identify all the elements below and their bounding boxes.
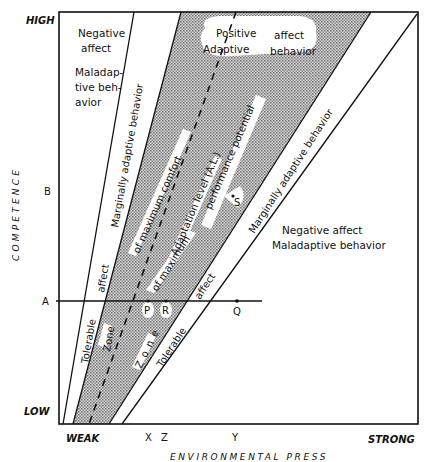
svg-text:Negative affect: Negative affect bbox=[282, 224, 362, 236]
region-lower-right-negative: Negative affect Maladaptive behavior bbox=[272, 224, 386, 251]
svg-text:Maladaptive behavior: Maladaptive behavior bbox=[272, 239, 386, 251]
svg-text:tive beh-: tive beh- bbox=[75, 81, 122, 93]
svg-text:affect: affect bbox=[274, 29, 304, 41]
y-marker-b: B bbox=[44, 186, 51, 197]
y-low-label: LOW bbox=[24, 406, 51, 417]
svg-text:behavior: behavior bbox=[270, 45, 317, 57]
x-weak-label: WEAK bbox=[66, 433, 101, 444]
point-r-dot bbox=[164, 299, 167, 302]
x-strong-label: STRONG bbox=[368, 434, 415, 445]
point-p-label: P bbox=[144, 305, 150, 316]
point-q-dot bbox=[235, 299, 239, 303]
region-upper-left-negative: Negative affect Maladap- tive beh- avior bbox=[75, 27, 125, 108]
x-marker-y: Y bbox=[231, 432, 239, 443]
svg-text:Maladap-: Maladap- bbox=[75, 66, 124, 78]
svg-text:Positive: Positive bbox=[216, 27, 256, 39]
svg-text:affect: affect bbox=[81, 42, 111, 54]
svg-text:Adaptive: Adaptive bbox=[203, 43, 249, 55]
y-marker-a: A bbox=[42, 296, 49, 307]
svg-text:avior: avior bbox=[75, 96, 102, 108]
point-p-dot bbox=[146, 299, 149, 302]
adaptation-level-diagram: HIGH LOW B A COMPETENCE WEAK X Z Y STRON… bbox=[0, 0, 427, 462]
x-marker-z: Z bbox=[161, 432, 168, 443]
point-q-label: Q bbox=[233, 306, 241, 317]
point-r-label: R bbox=[162, 305, 169, 316]
point-s-label: S bbox=[234, 197, 240, 208]
x-marker-x: X bbox=[145, 432, 152, 443]
svg-text:Negative: Negative bbox=[78, 27, 125, 39]
y-high-label: HIGH bbox=[26, 15, 55, 26]
y-axis-title: COMPETENCE bbox=[11, 167, 21, 261]
x-axis-title: ENVIRONMENTAL PRESS bbox=[170, 452, 328, 462]
